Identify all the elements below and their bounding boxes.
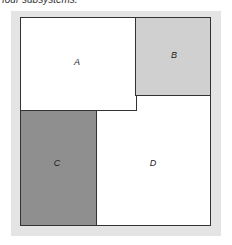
region-a-label: A xyxy=(74,57,80,67)
region-c: C xyxy=(20,109,98,226)
caption-text: four subsystems. xyxy=(2,0,78,5)
region-b-label: B xyxy=(171,50,177,60)
region-b: B xyxy=(135,17,211,96)
region-c-label: C xyxy=(54,158,61,168)
region-a: A xyxy=(20,17,137,111)
region-d-label: D xyxy=(150,158,157,168)
region-d: D xyxy=(96,94,211,226)
